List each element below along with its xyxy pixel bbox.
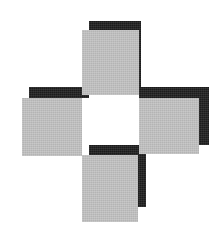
geometric-cross-figure [0,0,221,231]
bottom-arm-square [82,155,138,222]
left-arm-shadow [29,87,89,98]
left-arm-square [22,98,82,156]
right-arm-square [139,98,199,154]
top-arm-square [82,30,139,95]
center-white-square [89,98,139,145]
